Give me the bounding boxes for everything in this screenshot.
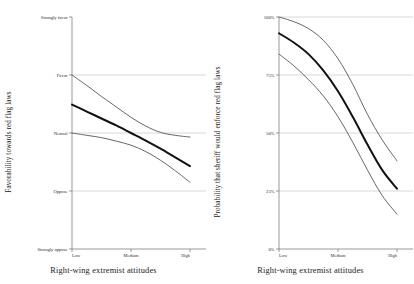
panel-favorability: Favorability towards red flag laws Stron…: [0, 0, 207, 284]
x-axis-title-left: Right-wing extremist attitudes: [0, 266, 207, 275]
plot-area-right: 100%75%50%25%0%LowMediumHigh: [207, 0, 414, 284]
y-tick-label: 75%: [266, 73, 275, 78]
x-tick-label: Low: [72, 253, 81, 258]
y-tick-label: Strongly oppose: [38, 247, 68, 252]
y-tick-label: 0%: [268, 247, 274, 252]
fit-line: [72, 105, 190, 166]
y-tick-label: 100%: [264, 15, 275, 20]
plot-area-left: Strongly favorFavorNeutralOpposeStrongly…: [0, 0, 207, 284]
y-tick-label: Strongly favor: [41, 15, 68, 20]
figure-two-panel-plot: Favorability towards red flag laws Stron…: [0, 0, 414, 284]
confidence-interval-line: [72, 75, 190, 137]
confidence-interval-line: [72, 133, 190, 182]
x-tick-label: High: [388, 253, 398, 258]
y-tick-label: Oppose: [53, 189, 67, 194]
y-tick-label: 25%: [266, 189, 275, 194]
y-tick-label: Neutral: [54, 131, 68, 136]
x-axis-title-right: Right-wing extremist attitudes: [207, 266, 414, 275]
x-tick-label: Low: [279, 253, 288, 258]
confidence-interval-line: [279, 54, 397, 214]
y-tick-label: Favor: [57, 73, 68, 78]
x-tick-label: Medium: [331, 253, 346, 258]
x-tick-label: High: [181, 253, 191, 258]
confidence-interval-line: [279, 17, 397, 161]
y-tick-label: 50%: [266, 131, 275, 136]
panel-probability: Probability that sheriff would enforce r…: [207, 0, 414, 284]
x-tick-label: Medium: [124, 253, 139, 258]
fit-line: [279, 33, 397, 188]
